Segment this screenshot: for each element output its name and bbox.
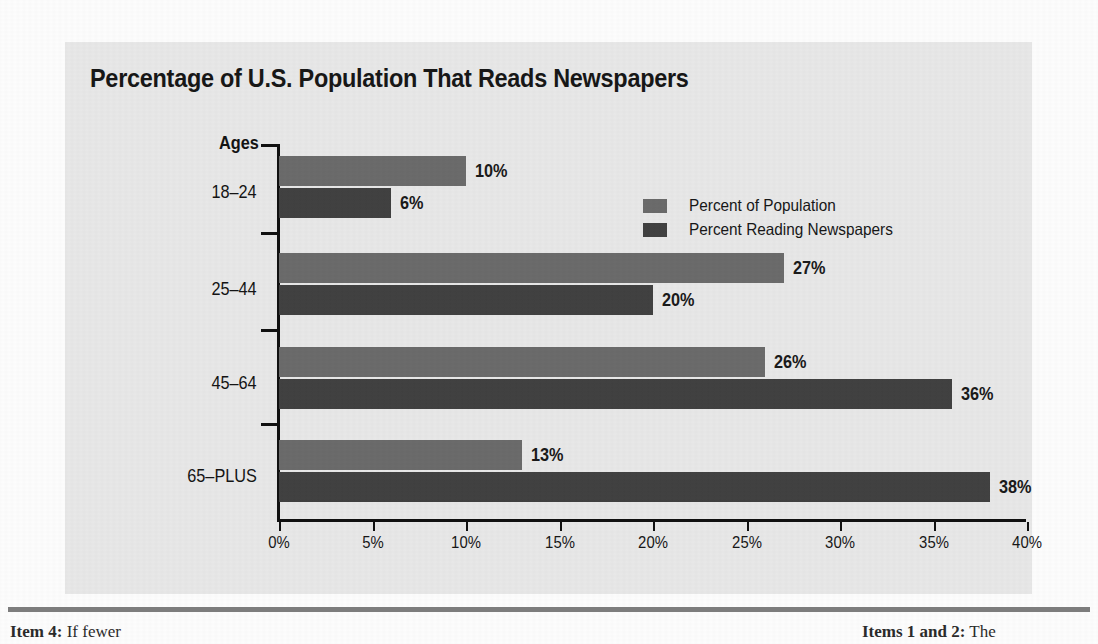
x-axis-tick bbox=[653, 522, 655, 531]
footer-note-right-label: Items 1 and 2: bbox=[862, 622, 965, 641]
bar-value-label: 6% bbox=[400, 193, 424, 214]
y-axis-category-label: 18–24 bbox=[212, 182, 257, 203]
bar-value-label: 20% bbox=[662, 290, 695, 311]
legend-swatch bbox=[643, 199, 667, 213]
legend-label: Percent of Population bbox=[689, 196, 836, 215]
x-axis-tick bbox=[373, 522, 375, 531]
footer-divider bbox=[8, 607, 1090, 612]
y-axis-tick bbox=[261, 423, 278, 426]
bar-1824-reading bbox=[279, 188, 391, 218]
y-axis-tick bbox=[261, 232, 278, 235]
x-axis-tick-label: 5% bbox=[362, 534, 384, 552]
plot-area: Ages 10%6%27%20%26%36%13%38% 18–2425–444… bbox=[213, 138, 1013, 558]
y-axis-category-label: 45–64 bbox=[212, 373, 257, 394]
bar-value-label: 10% bbox=[475, 161, 508, 182]
y-axis-tick-top bbox=[261, 144, 278, 147]
x-axis-tick-label: 20% bbox=[638, 534, 668, 552]
bar-4564-reading bbox=[279, 379, 952, 409]
x-axis-tick-label: 10% bbox=[451, 534, 481, 552]
bar-65PLUS-population bbox=[279, 440, 522, 470]
x-axis-line bbox=[277, 519, 1026, 522]
footer-note-right-text: The bbox=[965, 622, 995, 641]
x-axis-tick bbox=[934, 522, 936, 531]
bar-value-label: 13% bbox=[531, 445, 564, 466]
footer-note-right: Items 1 and 2: The bbox=[862, 622, 996, 642]
x-axis-tick bbox=[279, 522, 281, 531]
x-axis-tick bbox=[840, 522, 842, 531]
y-axis-title: Ages bbox=[219, 133, 259, 154]
bar-2544-reading bbox=[279, 285, 653, 315]
x-axis-tick-label: 0% bbox=[268, 534, 290, 552]
y-axis-tick bbox=[261, 329, 278, 332]
bar-value-label: 36% bbox=[961, 384, 994, 405]
x-axis-tick bbox=[747, 522, 749, 531]
x-axis-tick-label: 30% bbox=[825, 534, 855, 552]
legend-swatch bbox=[643, 223, 667, 237]
footer-note-left-label: Item 4: bbox=[10, 622, 62, 641]
bar-value-label: 26% bbox=[774, 352, 807, 373]
x-axis-tick-label: 35% bbox=[919, 534, 949, 552]
bar-4564-population bbox=[279, 347, 765, 377]
footer-note-left: Item 4: If fewer bbox=[10, 622, 121, 642]
bar-value-label: 27% bbox=[793, 258, 826, 279]
y-axis-category-label: 25–44 bbox=[212, 279, 257, 300]
x-axis-tick-label: 25% bbox=[732, 534, 762, 552]
y-axis-category-label: 65–PLUS bbox=[187, 466, 257, 487]
x-axis-tick bbox=[1027, 522, 1029, 531]
x-axis-tick-label: 40% bbox=[1012, 534, 1042, 552]
chart-panel: Percentage of U.S. Population That Reads… bbox=[65, 42, 1032, 594]
x-axis-tick-label: 15% bbox=[545, 534, 575, 552]
x-axis-tick bbox=[560, 522, 562, 531]
x-axis-tick bbox=[466, 522, 468, 531]
figure-page: Percentage of U.S. Population That Reads… bbox=[0, 0, 1098, 644]
footer-note-left-text: If fewer bbox=[62, 622, 121, 641]
chart-title: Percentage of U.S. Population That Reads… bbox=[90, 64, 689, 93]
bar-65PLUS-reading bbox=[279, 472, 990, 502]
bar-2544-population bbox=[279, 253, 784, 283]
bar-value-label: 38% bbox=[999, 477, 1032, 498]
bar-1824-population bbox=[279, 156, 466, 186]
legend-label: Percent Reading Newspapers bbox=[689, 220, 893, 239]
